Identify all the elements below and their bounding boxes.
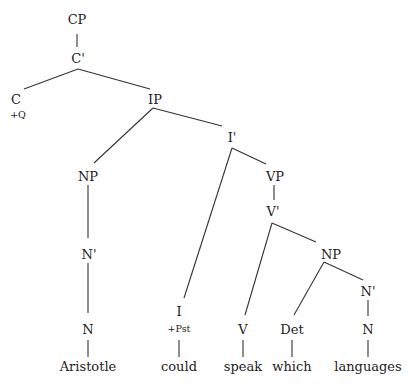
node-det: Det	[280, 322, 304, 337]
node-vp: VP	[265, 169, 284, 184]
node-v-bar: V'	[266, 204, 280, 219]
edge-line	[294, 262, 324, 315]
edge-line	[94, 108, 153, 163]
node-i-bar: I'	[228, 130, 237, 145]
node-cp: CP	[68, 12, 87, 27]
node-i: I	[176, 304, 181, 319]
node-np-subject: NP	[78, 169, 98, 184]
word-languages: languages	[334, 359, 401, 374]
edge-line	[324, 262, 363, 280]
node-n-object: N	[362, 322, 373, 337]
edge-line	[245, 223, 272, 315]
node-v: V	[237, 322, 248, 337]
terminal-words: Aristotle could speak which languages	[59, 359, 402, 374]
node-np-object: NP	[321, 247, 341, 262]
edge-line	[272, 223, 316, 242]
word-aristotle: Aristotle	[59, 359, 117, 374]
node-n-subject: N	[82, 322, 93, 337]
tree-nodes: CP C' C +Q IP I' NP VP V' N' NP N' N I +…	[10, 12, 375, 337]
edge-line	[24, 69, 78, 89]
edge-line	[184, 148, 232, 298]
tree-edges	[24, 34, 368, 357]
node-c-bar: C'	[71, 51, 85, 66]
word-could: could	[161, 359, 197, 374]
node-c: C	[11, 92, 21, 107]
node-ip: IP	[148, 92, 162, 107]
edge-line	[153, 108, 222, 126]
word-which: which	[272, 359, 312, 374]
node-n-bar-subject: N'	[82, 247, 97, 262]
edge-line	[78, 69, 150, 89]
node-n-bar-object: N'	[361, 284, 376, 299]
node-c-feature: +Q	[10, 109, 26, 120]
syntax-tree: CP C' C +Q IP I' NP VP V' N' NP N' N I +…	[0, 0, 409, 384]
edge-line	[232, 148, 266, 164]
word-speak: speak	[224, 359, 262, 374]
node-i-feature: +Pst	[168, 323, 191, 334]
